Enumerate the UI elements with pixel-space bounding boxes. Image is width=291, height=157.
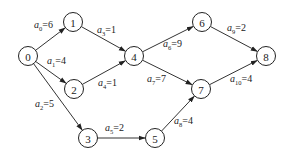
node-label: 8	[263, 51, 269, 63]
node-7: 7	[192, 80, 211, 99]
edge-label-a5: a5=2	[105, 122, 124, 135]
edge-label-a10: a10=4	[230, 73, 252, 86]
node-label: 7	[198, 84, 204, 96]
edge-label-a0: a0=6	[34, 19, 53, 32]
edge-label-a7: a7=7	[147, 73, 166, 86]
node-label: 4	[131, 51, 137, 63]
node-label: 5	[152, 133, 158, 145]
edge-label-a3: a3=1	[97, 24, 116, 37]
edge-label-a2: a2=5	[35, 98, 54, 111]
node-3: 3	[79, 129, 98, 148]
edge-a4	[82, 61, 125, 85]
node-2: 2	[65, 80, 84, 99]
node-5: 5	[146, 129, 165, 148]
edge-label-a4: a4=1	[98, 77, 117, 90]
node-0: 0	[19, 47, 38, 66]
edge-labels-layer: a0=6a1=4a2=5a3=1a4=1a5=2a6=9a7=7a8=4a9=2…	[34, 19, 252, 135]
edge-label-a1: a1=4	[47, 55, 66, 68]
node-8: 8	[257, 47, 276, 66]
node-4: 4	[125, 47, 144, 66]
edge-label-a8: a8=4	[174, 115, 193, 128]
edge-label-a9: a9=2	[227, 22, 246, 35]
node-1: 1	[64, 13, 83, 32]
aoe-network-diagram: 012345678 a0=6a1=4a2=5a3=1a4=1a5=2a6=9a7…	[0, 0, 291, 157]
node-label: 1	[70, 17, 76, 29]
node-label: 0	[25, 51, 31, 63]
edge-label-a6: a6=9	[163, 38, 182, 51]
node-label: 2	[71, 84, 77, 96]
node-label: 3	[85, 133, 91, 145]
node-6: 6	[193, 13, 212, 32]
node-label: 6	[199, 17, 205, 29]
